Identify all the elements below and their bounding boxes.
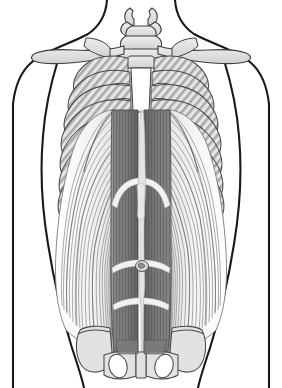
anatomy-illustration bbox=[0, 0, 282, 388]
rectus-abdominis-right bbox=[144, 110, 171, 352]
pubic-symphysis bbox=[136, 352, 146, 378]
vertebra-body-mid bbox=[120, 36, 161, 50]
linea-alba-widening-upper bbox=[137, 183, 145, 221]
anatomy-figure bbox=[0, 0, 282, 388]
vertebrae-group bbox=[120, 8, 163, 62]
sternum-body bbox=[131, 68, 151, 112]
rectus-insertion-right bbox=[144, 340, 166, 354]
rectus-abdominis-left bbox=[111, 110, 138, 352]
manubrium bbox=[126, 56, 156, 68]
rectus-insertion-left bbox=[116, 340, 138, 354]
umbilicus-group bbox=[136, 261, 149, 272]
